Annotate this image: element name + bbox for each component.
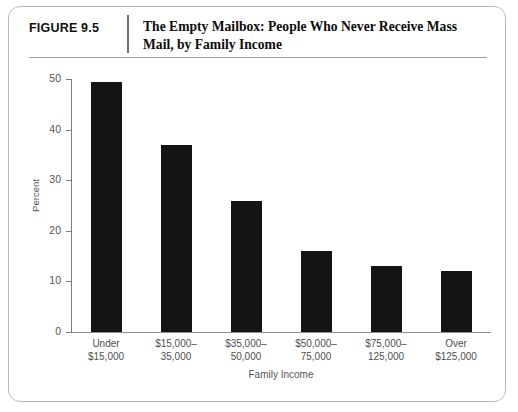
figure-container: FIGURE 9.5 The Empty Mailbox: People Who… <box>8 6 506 402</box>
x-axis-tick-label-line: Under <box>69 337 143 350</box>
x-axis-tick-label: $50,000–75,000 <box>279 337 353 363</box>
x-axis-tick-label-line: $50,000– <box>279 337 353 350</box>
bar <box>161 145 192 332</box>
x-axis-tick-label: $35,000–50,000 <box>209 337 283 363</box>
x-axis-tick-label-line: $125,000 <box>419 350 493 363</box>
bars-layer <box>71 79 491 332</box>
x-axis-tick-label-line: $75,000– <box>349 337 423 350</box>
x-axis-tick-label-line: $35,000– <box>209 337 283 350</box>
y-axis-tick <box>66 332 72 333</box>
x-axis-line <box>71 332 491 333</box>
bar <box>91 82 122 332</box>
x-axis-tick-label: $15,000–35,000 <box>139 337 213 363</box>
bar <box>371 266 402 332</box>
x-axis-tick-label-line: Over <box>419 337 493 350</box>
x-axis-tick-label-line: 125,000 <box>349 350 423 363</box>
y-axis-title: Percent <box>30 166 41 226</box>
x-axis-tick-label: Under$15,000 <box>69 337 143 363</box>
bar <box>231 201 262 332</box>
x-axis-tick-label: Over$125,000 <box>419 337 493 363</box>
y-axis-tick-label: 50 <box>27 72 61 84</box>
x-axis-tick-label-line: 50,000 <box>209 350 283 363</box>
x-axis-tick-label-line: 75,000 <box>279 350 353 363</box>
y-axis-tick-label: 40 <box>27 123 61 135</box>
x-axis-tick-label-line: $15,000– <box>139 337 213 350</box>
x-axis-tick-label: $75,000–125,000 <box>349 337 423 363</box>
bar <box>441 271 472 332</box>
bar <box>301 251 332 332</box>
x-axis-tick-label-line: 35,000 <box>139 350 213 363</box>
y-axis-tick-label: 10 <box>27 274 61 286</box>
y-axis-tick-label: 20 <box>27 224 61 236</box>
x-axis-tick-label-line: $15,000 <box>69 350 143 363</box>
x-axis-title: Family Income <box>71 369 491 380</box>
y-axis-tick-label: 0 <box>27 325 61 337</box>
bar-chart-plot: 01020304050 Percent Under$15,000$15,000–… <box>9 7 505 401</box>
